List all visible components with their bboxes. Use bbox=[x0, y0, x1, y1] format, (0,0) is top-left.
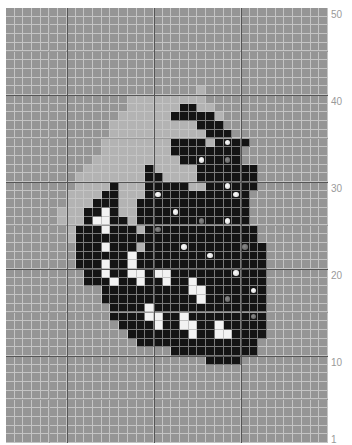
grid-cell bbox=[41, 52, 50, 61]
grid-cell bbox=[232, 426, 241, 435]
grid-cell bbox=[197, 8, 206, 17]
grid-cell bbox=[284, 417, 293, 426]
grid-cell bbox=[197, 400, 206, 409]
grid-cell bbox=[232, 69, 241, 78]
grid-cell bbox=[128, 173, 137, 182]
grid-cell bbox=[76, 78, 85, 87]
grid-cell bbox=[197, 86, 206, 95]
grid-cell bbox=[189, 173, 198, 182]
grid-cell bbox=[267, 304, 276, 313]
grid-cell bbox=[241, 373, 250, 382]
grid-cell bbox=[215, 356, 224, 365]
grid-cell bbox=[284, 339, 293, 348]
grid-cell bbox=[311, 356, 320, 365]
grid-cell bbox=[293, 156, 302, 165]
grid-cell bbox=[224, 8, 233, 17]
grid-cell bbox=[197, 112, 206, 121]
grid-cell bbox=[302, 17, 311, 26]
grid-cell bbox=[58, 313, 67, 322]
grid-cell bbox=[6, 269, 15, 278]
grid-cell bbox=[250, 260, 259, 269]
grid-cell bbox=[93, 69, 102, 78]
grid-cell bbox=[189, 365, 198, 374]
grid-cell bbox=[206, 34, 215, 43]
grid-cell bbox=[145, 139, 154, 148]
grid-cell bbox=[110, 130, 119, 139]
major-gridline-horizontal bbox=[6, 269, 328, 270]
grid-cell bbox=[215, 121, 224, 130]
grid-cell bbox=[6, 165, 15, 174]
grid-cell bbox=[206, 426, 215, 435]
grid-cell bbox=[302, 226, 311, 235]
grid-cell bbox=[189, 252, 198, 261]
grid-cell bbox=[137, 434, 146, 443]
grid-cell bbox=[93, 365, 102, 374]
grid-cell bbox=[110, 434, 119, 443]
grid-cell bbox=[224, 339, 233, 348]
grid-cell bbox=[197, 60, 206, 69]
grid-cell bbox=[284, 8, 293, 17]
grid-cell bbox=[50, 321, 59, 330]
grid-cell bbox=[284, 17, 293, 26]
grid-cell bbox=[145, 373, 154, 382]
major-gridline-horizontal bbox=[6, 182, 328, 183]
grid-cell bbox=[76, 373, 85, 382]
grid-cell bbox=[67, 208, 76, 217]
grid-cell bbox=[128, 147, 137, 156]
grid-cell bbox=[76, 86, 85, 95]
grid-cell bbox=[119, 269, 128, 278]
grid-cell bbox=[119, 43, 128, 52]
grid-cell bbox=[232, 43, 241, 52]
grid-cell bbox=[41, 434, 50, 443]
grid-cell bbox=[154, 43, 163, 52]
grid-cell bbox=[110, 365, 119, 374]
grid-cell bbox=[293, 304, 302, 313]
grid-cell bbox=[6, 104, 15, 113]
grid-cell bbox=[76, 34, 85, 43]
grid-cell bbox=[23, 25, 32, 34]
grid-cell bbox=[50, 182, 59, 191]
grid-cell bbox=[215, 199, 224, 208]
grid-cell bbox=[145, 426, 154, 435]
grid-cell bbox=[180, 286, 189, 295]
gray-bead-icon bbox=[225, 157, 231, 163]
grid-cell bbox=[163, 191, 172, 200]
grid-cell bbox=[93, 25, 102, 34]
grid-cell bbox=[67, 147, 76, 156]
grid-cell bbox=[197, 356, 206, 365]
grid-cell bbox=[224, 34, 233, 43]
grid-cell bbox=[250, 208, 259, 217]
grid-cell bbox=[215, 226, 224, 235]
grid-cell bbox=[145, 52, 154, 61]
grid-cell bbox=[32, 252, 41, 261]
grid-cell bbox=[163, 234, 172, 243]
grid-cell bbox=[189, 347, 198, 356]
grid-cell bbox=[15, 252, 24, 261]
grid-cell bbox=[276, 226, 285, 235]
grid-cell bbox=[50, 130, 59, 139]
grid-cell bbox=[311, 217, 320, 226]
grid-cell bbox=[110, 104, 119, 113]
grid-cell bbox=[76, 199, 85, 208]
grid-cell bbox=[84, 69, 93, 78]
grid-cell bbox=[258, 347, 267, 356]
grid-cell bbox=[250, 182, 259, 191]
grid-cell bbox=[224, 165, 233, 174]
grid-cell bbox=[302, 25, 311, 34]
grid-cell bbox=[197, 234, 206, 243]
y-label-10: 10 bbox=[331, 358, 342, 368]
grid-cell bbox=[6, 339, 15, 348]
grid-cell bbox=[119, 52, 128, 61]
grid-cell bbox=[137, 139, 146, 148]
grid-cell bbox=[102, 8, 111, 17]
grid-cell bbox=[110, 295, 119, 304]
grid-cell bbox=[154, 60, 163, 69]
grid-cell bbox=[93, 347, 102, 356]
grid-cell bbox=[76, 17, 85, 26]
grid-cell bbox=[267, 243, 276, 252]
grid-cell bbox=[215, 269, 224, 278]
grid-cell bbox=[67, 408, 76, 417]
grid-cell bbox=[302, 8, 311, 17]
white-bead-icon bbox=[225, 218, 231, 224]
grid-cell bbox=[276, 139, 285, 148]
